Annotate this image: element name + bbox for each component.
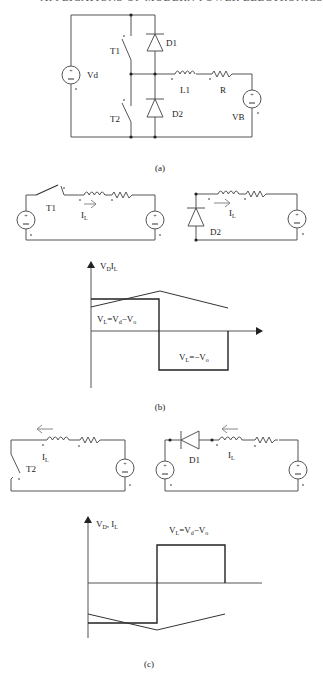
c-left-inductor-icon [47, 437, 69, 440]
b-right-inductor-icon [218, 191, 239, 194]
l1-inductor-icon [175, 71, 195, 74]
b-left-current-arrow-icon [84, 200, 96, 208]
graph-b-annotation-low: VL=−Vo [179, 352, 209, 363]
label-t1: T1 [110, 46, 120, 56]
caption-b: (b) [155, 402, 166, 412]
graph-b-annotation-high: VL=Vd−Vo [97, 314, 136, 325]
c-left-label-il: IL [42, 452, 49, 463]
graph-c-annotation-high: VL=Vd−Vo [169, 525, 208, 536]
b-right-resistor-icon [246, 191, 268, 197]
b-right-load-source-icon: + [288, 210, 306, 228]
label-t2: T2 [110, 114, 120, 124]
b-left-label-il: IL [81, 210, 88, 221]
d1-diode-icon [146, 34, 164, 51]
label-vb: VB [232, 112, 245, 122]
b-left-resistor-icon [112, 192, 134, 198]
c-right-d1-diode-icon [181, 431, 212, 449]
b-right-d2-diode-icon [187, 208, 205, 226]
c-right-current-arrow-icon [222, 425, 238, 433]
vb-source-icon: + [243, 90, 261, 108]
graph-b-ylabel: VDIL [100, 261, 118, 272]
vd-source-icon: + [62, 66, 80, 84]
c-right-label-d1: D1 [189, 455, 200, 465]
r-resistor-icon [212, 71, 235, 77]
c-right-resistor-icon [255, 437, 278, 443]
b-left-source-icon: + [17, 211, 35, 229]
b-left-inductor-icon [84, 192, 105, 195]
caption-a: (a) [155, 163, 165, 173]
d2-diode-icon [146, 99, 164, 117]
b-right-label-il: IL [229, 208, 236, 219]
label-r: R [220, 85, 226, 95]
diagram-canvas: + + Vd T1 T2 D1 D2 L1 R VB (a) [0, 0, 323, 680]
c-left-load-source-icon: + [116, 459, 134, 477]
graph-c-ylabel: VD, IL [96, 519, 118, 530]
label-d2: D2 [172, 109, 183, 119]
label-vd: Vd [87, 70, 98, 80]
c-right-source-icon: + [156, 461, 174, 479]
b-right-current-arrow-icon [214, 199, 230, 207]
label-d1: D1 [166, 38, 177, 48]
graph-b [91, 262, 262, 388]
c-right-label-il: IL [228, 450, 235, 461]
b-left-load-source-icon: + [146, 211, 164, 229]
figure-a-circuit [71, 15, 252, 137]
c-left-current-arrow-icon [37, 425, 53, 433]
c-left-resistor-icon [80, 437, 103, 443]
label-l1: L1 [180, 85, 190, 95]
b-right-label-d2: D2 [210, 227, 221, 237]
c-right-inductor-icon [219, 437, 242, 440]
caption-c: (c) [144, 659, 154, 669]
figure-c-right-circuit [165, 440, 298, 491]
c-right-load-source-icon: + [289, 461, 307, 479]
b-left-label-t1: T1 [46, 203, 56, 213]
graph-c-voltage-square-wave [88, 545, 225, 623]
c-left-label-t2: T2 [26, 464, 36, 474]
